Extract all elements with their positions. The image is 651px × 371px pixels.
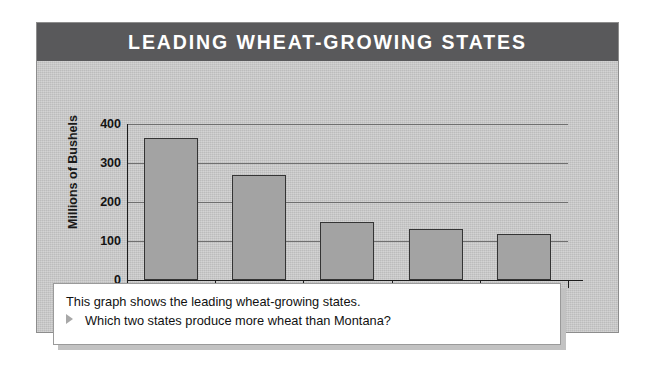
bar-slot-washington (480, 124, 568, 280)
y-tick-200: 200 (81, 195, 121, 209)
bar-slot-oklahoma (392, 124, 480, 280)
bar-slot-north-dakota (215, 124, 303, 280)
y-tick-400: 400 (81, 117, 121, 131)
bar-oklahoma (409, 229, 463, 281)
y-tick-300: 300 (81, 156, 121, 170)
caption-line-question: Which two states produce more wheat than… (66, 311, 560, 330)
bar-washington (497, 234, 551, 280)
y-axis-line (127, 124, 128, 281)
bar-north-dakota (232, 175, 286, 280)
caption-text-2: Which two states produce more wheat than… (85, 311, 391, 330)
x-tick-5 (568, 281, 569, 288)
bar-series (127, 124, 568, 280)
y-tick-100: 100 (81, 234, 121, 248)
caption-text-1: This graph shows the leading wheat-growi… (66, 292, 361, 311)
bar-slot-montana (303, 124, 391, 280)
chart-title-bar: LEADING WHEAT-GROWING STATES (37, 23, 618, 61)
y-axis-tick-labels: 400 300 200 100 0 (77, 124, 121, 280)
triangle-right-icon (66, 314, 73, 324)
bar-montana (320, 222, 374, 280)
bar-kansas (144, 138, 198, 280)
bar-slot-kansas (127, 124, 215, 280)
chart-title: LEADING WHEAT-GROWING STATES (128, 31, 527, 54)
caption-line-description: This graph shows the leading wheat-growi… (66, 292, 560, 311)
caption-box: This graph shows the leading wheat-growi… (53, 283, 561, 345)
